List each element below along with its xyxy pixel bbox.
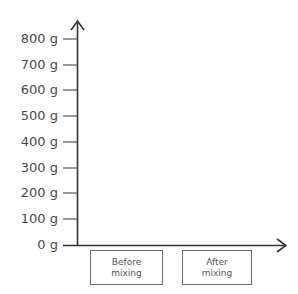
y-tick-label-300: 300 g: [0, 161, 58, 175]
y-tick-label-200: 200 g: [0, 186, 58, 200]
y-tick-label-500: 500 g: [0, 109, 58, 123]
y-tick-label-700: 700 g: [0, 58, 58, 72]
category-box-after-mixing: After mixing: [182, 250, 252, 285]
y-tick-label-400: 400 g: [0, 135, 58, 149]
y-tick-label-0: 0 g: [0, 238, 58, 252]
y-tick-label-100: 100 g: [0, 212, 58, 226]
y-tick-label-600: 600 g: [0, 83, 58, 97]
category-box-before-mixing: Before mixing: [90, 250, 163, 285]
y-ticks: [63, 39, 77, 219]
y-tick-label-800: 800 g: [0, 32, 58, 46]
